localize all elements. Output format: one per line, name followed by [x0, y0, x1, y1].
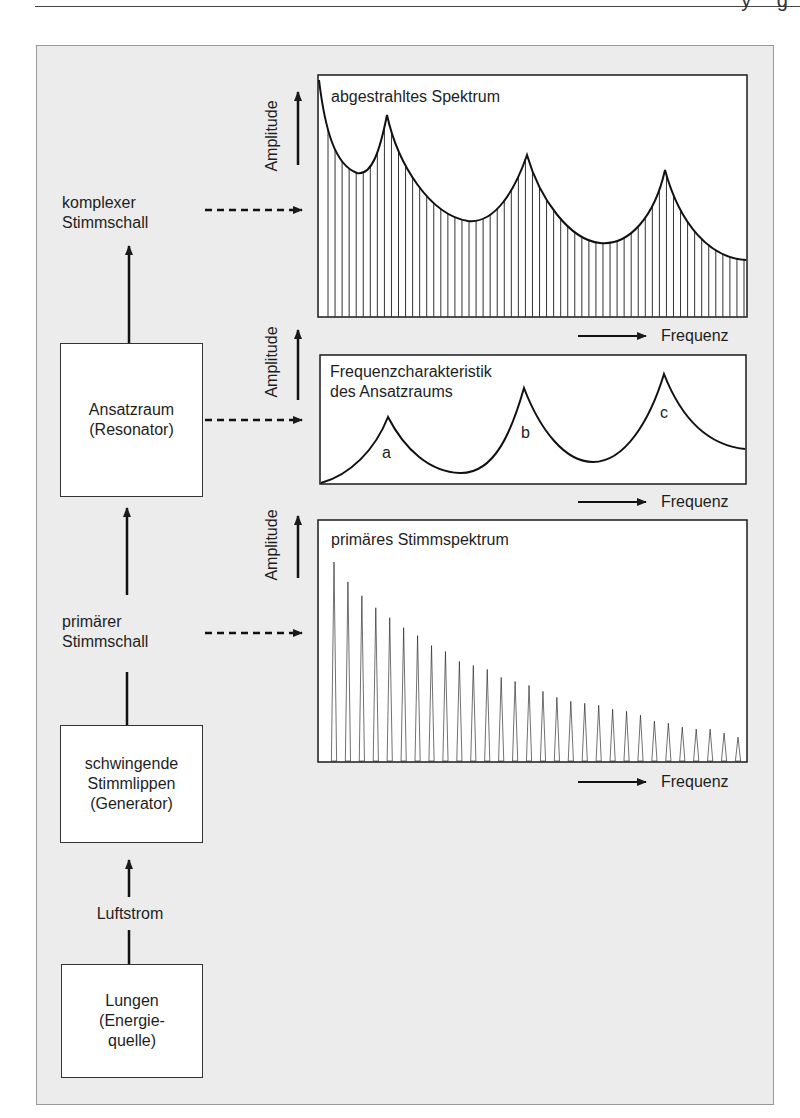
radiated-spectrum-title: abgestrahltes Spektrum — [331, 87, 500, 107]
amplitude-label-middle: Amplitude — [262, 314, 282, 410]
peak-label-c: c — [660, 404, 668, 422]
lungs-box-line1: Lungen — [99, 991, 165, 1011]
primary-sound-label: primärer Stimmschall — [62, 612, 202, 652]
generator-box-line2: Stimmlippen — [85, 774, 178, 794]
generator-box-line3: (Generator) — [85, 794, 178, 814]
resonator-box: Ansatzraum (Resonator) — [60, 343, 203, 497]
lungs-box-line3: quelle) — [99, 1031, 165, 1051]
generator-box: schwingende Stimmlippen (Generator) — [60, 725, 203, 843]
complex-sound-label: komplexer Stimmschall — [62, 193, 202, 233]
resonator-box-line2: (Resonator) — [89, 420, 174, 440]
primary-spectrum-panel — [318, 520, 747, 762]
resonator-response-title: Frequenzcharakteristikdes Ansatzraums — [330, 362, 570, 402]
lungs-box: Lungen (Energie- quelle) — [61, 964, 203, 1078]
frequency-label-middle: Frequenz — [661, 492, 729, 512]
resonator-box-line1: Ansatzraum — [89, 400, 174, 420]
lungs-box-line2: (Energie- — [99, 1011, 165, 1031]
frequency-label-top: Frequenz — [661, 326, 729, 346]
airflow-label: Luftstrom — [60, 904, 200, 924]
diagram-canvas — [0, 0, 800, 1118]
peak-label-a: a — [382, 444, 391, 462]
amplitude-label-top: Amplitude — [262, 88, 282, 184]
complex-sound-line1: komplexer — [62, 193, 202, 213]
primary-sound-line1: primärer — [62, 612, 202, 632]
complex-sound-line2: Stimmschall — [62, 213, 202, 233]
peak-label-b: b — [521, 424, 530, 442]
primary-sound-line2: Stimmschall — [62, 632, 202, 652]
amplitude-label-bottom: Amplitude — [262, 497, 282, 593]
frequency-label-bottom: Frequenz — [661, 772, 729, 792]
generator-box-line1: schwingende — [85, 754, 178, 774]
primary-spectrum-title: primäres Stimmspektrum — [331, 530, 509, 550]
